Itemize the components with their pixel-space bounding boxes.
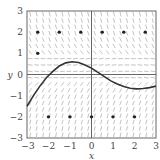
- slope-segment: [36, 107, 37, 111]
- slope-segment: [49, 25, 50, 29]
- slope-segment: [114, 120, 115, 125]
- slope-segment: [88, 126, 89, 131]
- slope-segment: [49, 18, 50, 23]
- slope-segment: [114, 126, 115, 131]
- slope-segment: [48, 50, 51, 54]
- slope-segment: [29, 44, 31, 48]
- data-point: [133, 115, 136, 118]
- slope-segment: [126, 95, 128, 99]
- slope-segment: [146, 25, 147, 29]
- slope-segment: [55, 50, 58, 54]
- slope-segment: [126, 37, 128, 41]
- slope-segment: [107, 37, 109, 41]
- slope-segment: [74, 50, 77, 54]
- slope-segment: [87, 82, 90, 86]
- slope-segment: [49, 120, 50, 125]
- slope-segment: [61, 50, 64, 54]
- slope-segment: [146, 18, 147, 23]
- slope-segment: [74, 37, 76, 41]
- slope-segment: [113, 37, 115, 41]
- data-point: [122, 30, 125, 33]
- slope-segment: [48, 88, 50, 92]
- slope-segment: [42, 37, 44, 41]
- slope-segment: [55, 88, 57, 92]
- slope-segment: [107, 133, 108, 138]
- slope-segment: [75, 25, 76, 29]
- slope-segment: [152, 18, 153, 23]
- slope-segment: [81, 25, 82, 29]
- slope-segment: [94, 37, 96, 41]
- slope-segment: [139, 101, 141, 105]
- slope-segment: [30, 120, 31, 125]
- slope-segment: [107, 12, 108, 17]
- slope-segment: [120, 95, 122, 99]
- x-tick-label: −2: [42, 141, 55, 151]
- slope-segment: [145, 44, 147, 48]
- data-point: [36, 52, 39, 55]
- slope-segment: [56, 133, 57, 138]
- slope-segment: [100, 107, 101, 111]
- slope-segment: [29, 31, 31, 35]
- slope-segment: [36, 44, 38, 48]
- slope-segment: [133, 12, 134, 17]
- slope-segment: [36, 25, 37, 29]
- slope-segment: [68, 12, 69, 17]
- slope-segment: [100, 25, 101, 29]
- slope-segment: [146, 12, 147, 17]
- slope-segment: [55, 114, 56, 118]
- slope-segment: [55, 101, 57, 105]
- slope-segment: [105, 58, 110, 59]
- slope-segment: [29, 50, 32, 54]
- slope-segment: [152, 31, 154, 35]
- slope-segment: [106, 82, 109, 86]
- slope-segment: [113, 101, 115, 105]
- slope-segment: [34, 65, 39, 66]
- slope-segment: [126, 88, 128, 92]
- slope-segment: [151, 82, 154, 85]
- slope-segment: [61, 95, 63, 99]
- slope-segment: [42, 101, 44, 105]
- slope-segment: [75, 31, 77, 35]
- slope-segment: [133, 133, 134, 138]
- slope-segment: [49, 37, 51, 41]
- slope-segment: [133, 31, 135, 35]
- slope-segment: [94, 133, 95, 138]
- slope-segment: [81, 44, 83, 48]
- slope-segment: [56, 126, 57, 131]
- slope-segment: [62, 126, 63, 131]
- slope-segment: [74, 95, 76, 99]
- slope-segment: [132, 95, 134, 99]
- slope-segment: [30, 18, 31, 23]
- slope-segment: [107, 95, 109, 99]
- data-point: [144, 30, 147, 33]
- slope-segment: [61, 82, 64, 86]
- slope-segment: [133, 101, 135, 105]
- slope-segment: [68, 88, 70, 92]
- slope-segment: [42, 88, 45, 92]
- slope-segment: [75, 18, 76, 22]
- slope-segment: [68, 101, 70, 105]
- x-tick-label: −1: [63, 141, 76, 151]
- slope-segment: [151, 50, 154, 54]
- slope-segment: [88, 133, 89, 138]
- slope-segment: [145, 95, 147, 99]
- slope-segment: [42, 44, 44, 48]
- slope-segment: [126, 107, 127, 111]
- slope-segment: [120, 37, 122, 41]
- slope-segment: [67, 50, 70, 54]
- slope-segment: [139, 107, 140, 111]
- slope-segment: [94, 107, 95, 111]
- slope-segment: [101, 114, 102, 118]
- slope-segment: [106, 44, 108, 48]
- slope-segment: [68, 44, 70, 48]
- slope-segment: [132, 44, 134, 48]
- slope-segment: [152, 101, 154, 105]
- slope-segment: [139, 126, 140, 131]
- slope-segment: [139, 31, 141, 35]
- slope-segment: [29, 107, 31, 111]
- slope-segment: [68, 126, 69, 131]
- slope-segment: [42, 25, 43, 29]
- slope-segment: [62, 12, 63, 17]
- slope-segment: [94, 31, 96, 35]
- slope-segment: [49, 107, 50, 111]
